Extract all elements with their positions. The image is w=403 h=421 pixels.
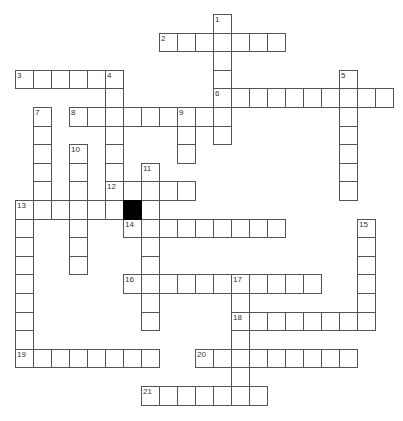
crossword-cell[interactable] [69, 256, 88, 276]
crossword-cell[interactable] [213, 70, 232, 90]
crossword-cell[interactable] [357, 312, 376, 332]
crossword-cell[interactable] [213, 274, 232, 294]
crossword-cell[interactable] [15, 274, 34, 294]
crossword-cell[interactable] [231, 33, 250, 53]
crossword-cell[interactable] [249, 386, 268, 406]
crossword-cell[interactable] [87, 200, 106, 220]
crossword-cell[interactable] [231, 293, 250, 313]
crossword-cell[interactable] [213, 33, 232, 53]
crossword-cell[interactable] [357, 237, 376, 257]
crossword-cell[interactable] [213, 51, 232, 71]
crossword-cell[interactable]: 9 [177, 107, 196, 127]
crossword-cell[interactable] [321, 312, 340, 332]
crossword-cell[interactable] [159, 386, 178, 406]
crossword-cell[interactable] [141, 274, 160, 294]
crossword-cell[interactable] [33, 349, 52, 369]
crossword-cell[interactable] [339, 163, 358, 183]
crossword-cell[interactable] [339, 144, 358, 164]
crossword-cell[interactable] [231, 349, 250, 369]
crossword-cell[interactable] [33, 181, 52, 201]
crossword-cell[interactable] [69, 219, 88, 239]
crossword-cell[interactable] [285, 88, 304, 108]
crossword-cell[interactable] [159, 274, 178, 294]
crossword-cell[interactable] [15, 219, 34, 239]
crossword-cell[interactable] [285, 274, 304, 294]
crossword-cell[interactable]: 5 [339, 70, 358, 90]
crossword-cell[interactable] [213, 107, 232, 127]
crossword-cell[interactable] [141, 219, 160, 239]
crossword-cell[interactable] [249, 88, 268, 108]
crossword-cell[interactable] [195, 219, 214, 239]
crossword-cell[interactable] [303, 274, 322, 294]
crossword-cell[interactable] [303, 349, 322, 369]
crossword-cell[interactable] [105, 144, 124, 164]
crossword-cell[interactable]: 17 [231, 274, 250, 294]
crossword-cell[interactable] [177, 219, 196, 239]
crossword-cell[interactable] [141, 107, 160, 127]
crossword-cell[interactable] [141, 237, 160, 257]
crossword-cell[interactable] [105, 200, 124, 220]
crossword-cell[interactable] [105, 88, 124, 108]
crossword-cell[interactable]: 10 [69, 144, 88, 164]
crossword-cell[interactable] [69, 163, 88, 183]
crossword-cell[interactable] [339, 181, 358, 201]
crossword-cell[interactable] [339, 349, 358, 369]
crossword-cell[interactable] [249, 219, 268, 239]
crossword-cell[interactable] [15, 293, 34, 313]
crossword-cell[interactable] [321, 88, 340, 108]
crossword-cell[interactable] [339, 88, 358, 108]
crossword-cell[interactable] [141, 200, 160, 220]
crossword-cell[interactable] [123, 181, 142, 201]
crossword-cell[interactable] [303, 88, 322, 108]
crossword-cell[interactable] [375, 88, 394, 108]
crossword-cell[interactable] [105, 107, 124, 127]
crossword-cell[interactable] [51, 70, 70, 90]
crossword-cell[interactable]: 12 [105, 181, 124, 201]
crossword-cell[interactable]: 14 [123, 219, 142, 239]
crossword-cell[interactable] [87, 70, 106, 90]
crossword-cell[interactable] [213, 126, 232, 146]
crossword-cell[interactable] [285, 349, 304, 369]
crossword-cell[interactable] [15, 237, 34, 257]
crossword-cell[interactable] [177, 274, 196, 294]
crossword-cell[interactable] [105, 163, 124, 183]
crossword-cell[interactable] [303, 312, 322, 332]
crossword-cell[interactable] [195, 274, 214, 294]
crossword-cell[interactable] [339, 312, 358, 332]
crossword-cell[interactable]: 1 [213, 14, 232, 34]
crossword-cell[interactable] [15, 330, 34, 350]
crossword-cell[interactable] [213, 349, 232, 369]
crossword-cell[interactable] [105, 349, 124, 369]
crossword-cell[interactable] [15, 256, 34, 276]
crossword-cell[interactable] [123, 107, 142, 127]
crossword-cell[interactable] [195, 33, 214, 53]
crossword-cell[interactable] [231, 219, 250, 239]
crossword-cell[interactable] [267, 88, 286, 108]
crossword-cell[interactable] [267, 312, 286, 332]
crossword-cell[interactable] [33, 163, 52, 183]
crossword-cell[interactable] [357, 256, 376, 276]
crossword-cell[interactable] [267, 219, 286, 239]
crossword-cell[interactable] [105, 126, 124, 146]
crossword-cell[interactable]: 7 [33, 107, 52, 127]
crossword-cell[interactable] [69, 349, 88, 369]
crossword-cell[interactable]: 8 [69, 107, 88, 127]
crossword-cell[interactable] [141, 181, 160, 201]
crossword-cell[interactable] [267, 274, 286, 294]
crossword-cell[interactable] [87, 107, 106, 127]
crossword-cell[interactable]: 11 [141, 163, 160, 183]
crossword-cell[interactable]: 18 [231, 312, 250, 332]
crossword-cell[interactable] [51, 349, 70, 369]
crossword-cell[interactable]: 4 [105, 70, 124, 90]
crossword-cell[interactable] [33, 200, 52, 220]
crossword-cell[interactable] [177, 33, 196, 53]
crossword-cell[interactable] [33, 144, 52, 164]
crossword-cell[interactable] [339, 126, 358, 146]
crossword-cell[interactable] [357, 293, 376, 313]
crossword-cell[interactable] [195, 107, 214, 127]
crossword-cell[interactable] [321, 349, 340, 369]
crossword-cell[interactable] [69, 237, 88, 257]
crossword-cell[interactable] [177, 144, 196, 164]
crossword-cell[interactable]: 16 [123, 274, 142, 294]
crossword-cell[interactable] [51, 200, 70, 220]
